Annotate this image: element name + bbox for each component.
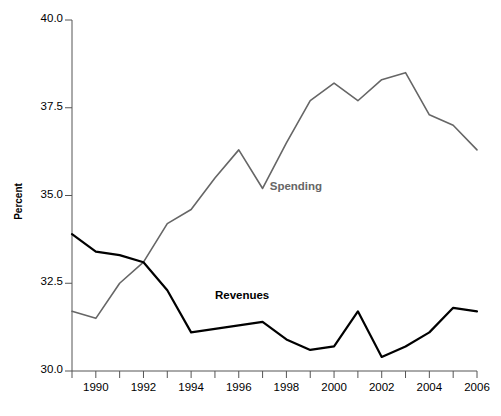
- series-line-spending: [72, 73, 477, 319]
- y-axis-tick-label: 40.0: [17, 12, 63, 24]
- y-axis-tick-label: 32.5: [17, 275, 63, 287]
- y-axis-tick-label: 37.5: [17, 100, 63, 112]
- y-axis-tick-label: 35.0: [17, 188, 63, 200]
- line-chart-canvas: [0, 0, 501, 416]
- series-label-spending: Spending: [270, 180, 322, 192]
- x-axis-tick-label: 2006: [447, 381, 501, 393]
- chart-figure: Percent 40.037.535.032.530.0 19901992199…: [0, 0, 501, 416]
- y-axis-label-container: Percent: [6, 168, 26, 248]
- y-axis-label: Percent: [13, 167, 24, 237]
- series-label-revenues: Revenues: [215, 289, 269, 301]
- series-line-revenues: [72, 234, 477, 357]
- y-axis-tick-label: 30.0: [17, 363, 63, 375]
